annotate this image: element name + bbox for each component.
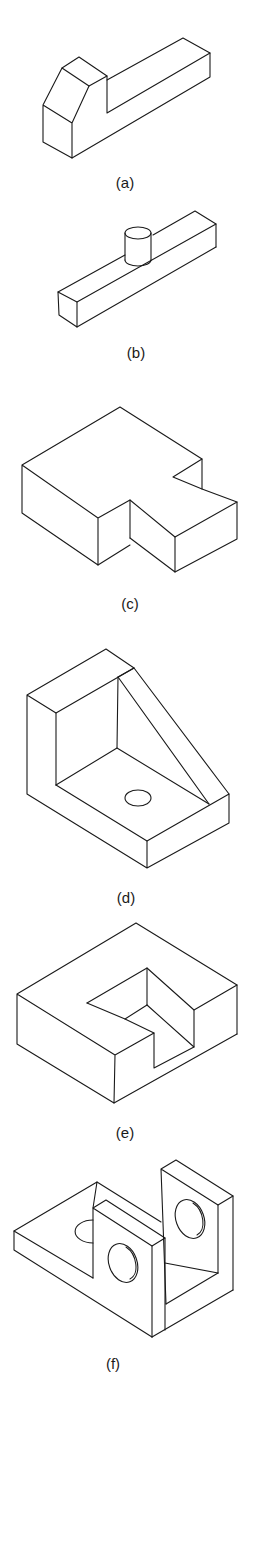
figure-d-drawing bbox=[27, 649, 229, 868]
figure-a-drawing bbox=[43, 38, 210, 158]
figure-label-e: (e) bbox=[116, 1124, 134, 1141]
figure-label-a: (a) bbox=[116, 174, 134, 191]
figure-label-d: (d) bbox=[117, 889, 135, 906]
isometric-figures bbox=[0, 0, 261, 1551]
figure-label-b: (b) bbox=[127, 344, 145, 361]
figure-c-drawing bbox=[22, 407, 237, 572]
figure-label-c: (c) bbox=[121, 595, 139, 612]
figure-b-drawing bbox=[58, 211, 216, 327]
figure-label-f: (f) bbox=[106, 1355, 120, 1372]
figure-e-drawing bbox=[17, 923, 237, 1103]
figure-f-drawing bbox=[14, 1160, 233, 1337]
